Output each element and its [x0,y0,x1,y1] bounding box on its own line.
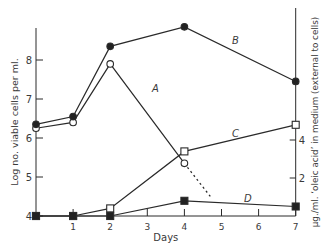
x-axis-label: Days [153,232,178,243]
x-tick-label: 2 [107,222,113,232]
series-label-C: C [232,128,239,139]
y-tick-label: 7 [26,94,32,105]
y-tick-label: 5 [26,172,32,183]
marker-filled-circle [107,43,114,50]
marker-filled-circle [70,113,77,120]
x-tick-label: 4 [182,222,188,232]
marker-open-square [181,148,188,155]
y2-tick-label: 2 [299,173,305,184]
marker-open-circle [107,61,114,68]
marker-open-square [292,121,299,128]
x-tick-label: 1 [70,222,76,232]
y2-axis-label: μg./ml. ‘oleic acid’ in medium (external… [310,17,320,227]
series-line-B [36,27,296,125]
marker-filled-square [292,203,299,210]
chart-canvas: 45678241234567DaysLog no. viable cells p… [0,0,325,243]
marker-filled-square [70,213,77,220]
marker-open-circle [181,160,188,167]
marker-filled-circle [181,24,188,31]
y-tick-label: 6 [26,133,32,144]
marker-filled-square [33,213,40,220]
y-tick-label: 8 [26,55,32,66]
line-chart: 45678241234567DaysLog no. viable cells p… [0,0,325,243]
x-tick-label: 7 [293,222,299,232]
y-tick-label: 4 [26,211,32,222]
marker-filled-square [107,213,114,220]
x-tick-label: 5 [219,222,225,232]
y2-tick-label: 4 [299,135,305,146]
series-extrapolation-A [184,163,210,196]
marker-filled-circle [292,78,299,85]
series-label-A: A [151,83,159,94]
series-label-B: B [232,35,239,46]
marker-open-square [107,205,114,212]
x-tick-label: 3 [144,222,150,232]
y-axis-label: Log no. viable cells per ml. [9,58,20,185]
marker-filled-square [181,197,188,204]
x-tick-label: 6 [256,222,262,232]
series-label-D: D [244,193,252,204]
marker-filled-circle [33,121,40,128]
series-line-A [36,64,184,163]
